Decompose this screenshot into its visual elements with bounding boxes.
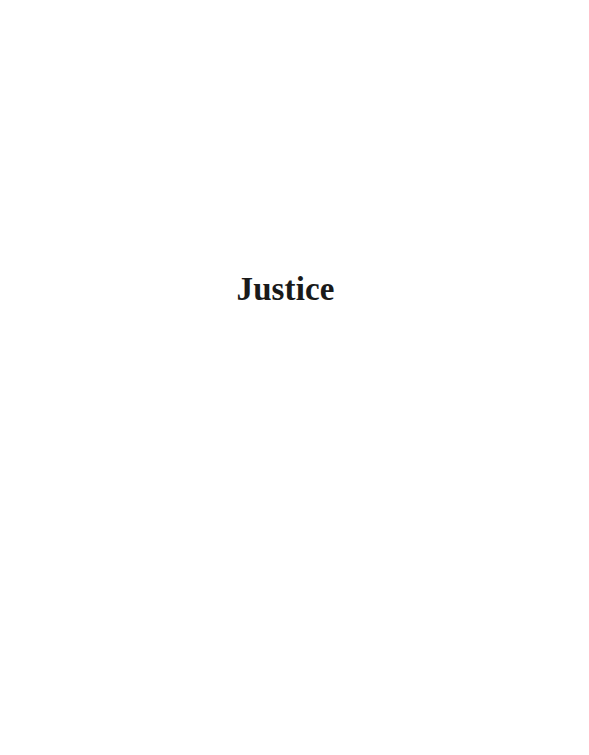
document-page: Justice xyxy=(0,0,589,755)
section-title-block: Justice xyxy=(0,0,589,325)
page-title: Justice xyxy=(237,273,335,306)
